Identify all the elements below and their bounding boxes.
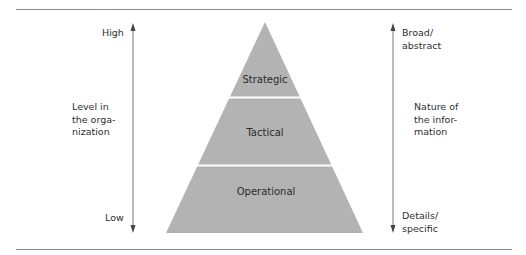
arrow-down-icon xyxy=(391,225,396,233)
arrow-up-icon xyxy=(131,23,136,31)
left-axis-top-label: High xyxy=(102,27,124,40)
layer-label-strategic: Strategic xyxy=(242,74,287,85)
left-axis-arrow xyxy=(131,23,136,233)
arrow-up-icon xyxy=(391,23,396,31)
right-axis-bottom-label: Details/ specific xyxy=(402,210,438,235)
arrow-down-icon xyxy=(131,225,136,233)
right-axis-top-label: Broad/ abstract xyxy=(402,27,441,52)
left-axis-bottom-label: Low xyxy=(105,212,124,225)
left-axis-title: Level in the orga- nization xyxy=(72,101,115,139)
layer-label-tactical: Tactical xyxy=(246,127,283,138)
right-axis-title: Nature of the infor- mation xyxy=(414,101,458,139)
layer-label-operational: Operational xyxy=(237,186,296,197)
right-axis-arrow xyxy=(391,23,396,233)
